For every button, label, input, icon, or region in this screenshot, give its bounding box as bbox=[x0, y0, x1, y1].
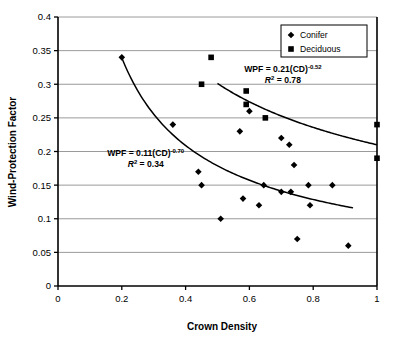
conifer-equation-line2: R2 = 0.34 bbox=[128, 159, 164, 169]
legend-label-conifer: Conifer bbox=[300, 30, 328, 40]
data-point-deciduous bbox=[199, 81, 205, 87]
x-tick-label: 0.2 bbox=[115, 293, 128, 304]
data-point-deciduous bbox=[243, 88, 249, 94]
legend-marker-deciduous bbox=[288, 46, 294, 52]
deciduous-equation-line2: R2 = 0.78 bbox=[265, 75, 301, 85]
data-point-deciduous bbox=[374, 122, 380, 128]
x-tick-label: 0.6 bbox=[243, 293, 256, 304]
scatter-plot: 00.050.10.150.20.250.30.350.4 00.20.40.6… bbox=[0, 0, 400, 337]
data-point-deciduous bbox=[208, 55, 214, 61]
data-point-deciduous bbox=[374, 155, 380, 161]
x-tick-label: 1 bbox=[374, 293, 379, 304]
x-tick-label: 0.8 bbox=[307, 293, 320, 304]
y-tick-label: 0.3 bbox=[38, 79, 51, 90]
x-tick-label: 0.4 bbox=[179, 293, 192, 304]
y-tick-label: 0.1 bbox=[38, 213, 51, 224]
y-tick-label: 0.4 bbox=[38, 11, 51, 22]
y-tick-label: 0.15 bbox=[33, 180, 52, 191]
chart-legend: ConiferDeciduous bbox=[281, 25, 367, 57]
y-tick-label: 0.35 bbox=[33, 45, 52, 56]
x-tick-label: 0 bbox=[55, 293, 60, 304]
chart-figure: 00.050.10.150.20.250.30.350.4 00.20.40.6… bbox=[0, 0, 400, 337]
y-tick-label: 0.05 bbox=[33, 247, 52, 258]
y-tick-label: 0 bbox=[46, 280, 51, 291]
data-point-deciduous bbox=[263, 115, 269, 121]
y-axis-title: Wind-Protection Factor bbox=[7, 97, 18, 208]
y-tick-label: 0.2 bbox=[38, 146, 51, 157]
y-tick-label: 0.25 bbox=[33, 112, 52, 123]
data-point-deciduous bbox=[243, 102, 249, 108]
x-axis-title: Crown Density bbox=[187, 321, 257, 332]
legend-label-deciduous: Deciduous bbox=[300, 44, 341, 54]
